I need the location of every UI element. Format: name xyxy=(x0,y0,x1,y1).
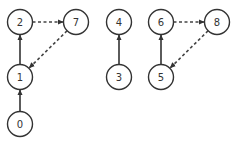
node-1: 1 xyxy=(8,65,33,90)
edge-7-to-1 xyxy=(29,31,67,68)
node-4: 4 xyxy=(107,10,132,35)
node-label: 6 xyxy=(158,17,164,28)
node-7: 7 xyxy=(64,10,89,35)
node-label: 7 xyxy=(73,17,79,28)
edge-8-to-5 xyxy=(170,31,208,68)
node-label: 4 xyxy=(116,17,122,28)
node-label: 2 xyxy=(17,17,23,28)
node-label: 0 xyxy=(17,119,23,130)
node-3: 3 xyxy=(107,65,132,90)
node-2: 2 xyxy=(8,10,33,35)
node-0: 0 xyxy=(8,112,33,137)
nodes-layer: 012734568 xyxy=(8,10,230,137)
node-8: 8 xyxy=(205,10,230,35)
node-label: 1 xyxy=(17,72,23,83)
graph-diagram: 012734568 xyxy=(0,0,238,142)
node-label: 8 xyxy=(214,17,220,28)
node-label: 5 xyxy=(158,72,164,83)
node-5: 5 xyxy=(149,65,174,90)
node-label: 3 xyxy=(116,72,122,83)
node-6: 6 xyxy=(149,10,174,35)
